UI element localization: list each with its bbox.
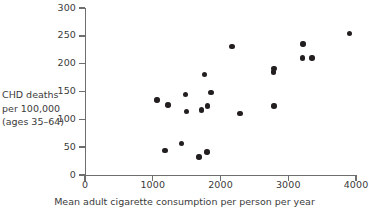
data-point xyxy=(237,111,242,116)
data-point xyxy=(347,31,352,36)
data-point xyxy=(162,148,167,153)
data-point xyxy=(300,55,305,60)
data-point xyxy=(300,41,305,46)
data-point xyxy=(204,149,209,154)
data-point xyxy=(165,102,170,107)
data-point xyxy=(205,103,210,108)
data-point xyxy=(208,90,213,95)
data-point xyxy=(154,97,159,102)
plot-area xyxy=(0,0,369,214)
data-point xyxy=(271,103,276,108)
data-point xyxy=(271,69,276,74)
data-point xyxy=(179,141,184,146)
data-point xyxy=(199,107,204,112)
data-point xyxy=(184,109,189,114)
x-axis-label: Mean adult cigarette consumption per per… xyxy=(0,196,369,207)
data-point xyxy=(309,55,314,60)
data-point xyxy=(196,154,201,159)
data-point xyxy=(183,92,188,97)
data-point xyxy=(202,72,207,77)
scatter-chart: CHD deaths per 100,000 (ages 35–64) 0501… xyxy=(0,0,369,214)
data-point xyxy=(229,44,234,49)
